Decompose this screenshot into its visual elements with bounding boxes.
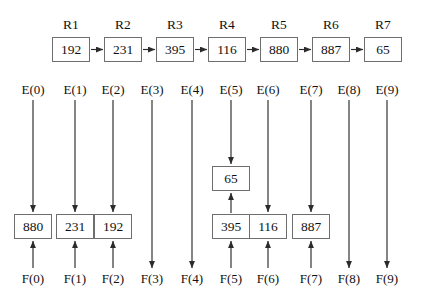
register-box-r7: 65 bbox=[364, 37, 402, 62]
output-label-f8: F(8) bbox=[338, 272, 360, 285]
input-label-e4: E(4) bbox=[180, 83, 203, 96]
register-box-r6: 887 bbox=[312, 37, 350, 62]
register-label-r2: R2 bbox=[115, 18, 131, 31]
output-label-f4: F(4) bbox=[181, 272, 203, 285]
bucket-box-lower-7: 887 bbox=[292, 214, 330, 239]
bucket-box-lower-5: 395 bbox=[212, 214, 250, 239]
bucket-box-lower-0: 880 bbox=[14, 214, 52, 239]
output-label-f9: F(9) bbox=[376, 272, 398, 285]
register-label-r7: R7 bbox=[375, 18, 391, 31]
register-label-r1: R1 bbox=[63, 18, 79, 31]
bucket-box-lower-2: 192 bbox=[94, 214, 132, 239]
register-label-r3: R3 bbox=[167, 18, 183, 31]
output-label-f1: F(1) bbox=[64, 272, 86, 285]
register-box-r4: 116 bbox=[208, 37, 246, 62]
output-label-f7: F(7) bbox=[300, 272, 322, 285]
register-box-r1: 192 bbox=[52, 37, 90, 62]
input-label-e7: E(7) bbox=[299, 83, 322, 96]
output-label-f3: F(3) bbox=[141, 272, 163, 285]
input-label-e1: E(1) bbox=[63, 83, 86, 96]
diagram-canvas: R1192R2231R3395R4116R5880R6887R765E(0)F(… bbox=[0, 0, 426, 295]
register-box-r2: 231 bbox=[104, 37, 142, 62]
input-label-e9: E(9) bbox=[375, 83, 398, 96]
input-label-e8: E(8) bbox=[337, 83, 360, 96]
bucket-box-upper-5: 65 bbox=[212, 166, 250, 191]
bucket-box-lower-1: 231 bbox=[56, 214, 94, 239]
output-label-f0: F(0) bbox=[22, 272, 44, 285]
output-label-f5: F(5) bbox=[220, 272, 242, 285]
output-label-f6: F(6) bbox=[257, 272, 279, 285]
input-label-e2: E(2) bbox=[101, 83, 124, 96]
input-label-e0: E(0) bbox=[21, 83, 44, 96]
register-label-r5: R5 bbox=[271, 18, 287, 31]
register-label-r4: R4 bbox=[219, 18, 235, 31]
register-box-r3: 395 bbox=[156, 37, 194, 62]
input-label-e6: E(6) bbox=[256, 83, 279, 96]
output-label-f2: F(2) bbox=[102, 272, 124, 285]
input-label-e5: E(5) bbox=[219, 83, 242, 96]
column-arrows bbox=[33, 100, 387, 268]
register-label-r6: R6 bbox=[323, 18, 339, 31]
input-label-e3: E(3) bbox=[140, 83, 163, 96]
bucket-box-lower-6: 116 bbox=[249, 214, 287, 239]
register-box-r5: 880 bbox=[260, 37, 298, 62]
